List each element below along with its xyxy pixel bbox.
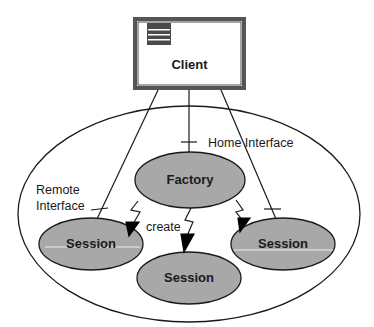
create-arrow-left-icon: [126, 201, 140, 236]
client-window-icon: [147, 23, 171, 45]
client-label: Client: [135, 57, 244, 72]
session-bottom-label: Session: [137, 270, 241, 285]
home-interface-label: Home Interface: [208, 136, 293, 150]
session-right-label: Session: [231, 236, 335, 251]
create-label: create: [146, 220, 181, 234]
remote-interface-label-line2: Interface: [36, 199, 85, 213]
client-box: [135, 19, 244, 88]
remote-interface-tick-left: [91, 208, 108, 210]
session-left-label: Session: [39, 236, 143, 251]
remote-interface-label-line1: Remote: [36, 183, 80, 197]
factory-label: Factory: [135, 172, 245, 187]
create-arrow-center-icon: [181, 208, 194, 252]
remote-link-left: [97, 90, 158, 219]
